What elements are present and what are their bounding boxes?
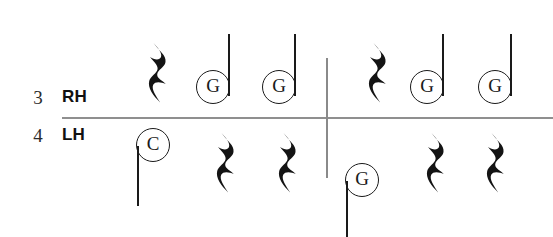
- notehead-letter: G: [478, 70, 512, 104]
- note-stem: [346, 181, 348, 237]
- note-g: G: [345, 163, 385, 203]
- time-signature-denominator: 4: [28, 126, 48, 145]
- quarter-rest: [484, 130, 514, 196]
- notehead-letter: C: [136, 128, 170, 162]
- note-c: C: [136, 128, 176, 168]
- notehead-letter: G: [262, 70, 296, 104]
- note-g: G: [262, 70, 302, 110]
- time-signature-numerator: 3: [28, 88, 48, 107]
- music-notation-diagram: 3 4 RH LH GGGGCG: [0, 0, 553, 237]
- note-stem: [294, 34, 296, 96]
- notehead-letter: G: [345, 163, 379, 197]
- right-hand-label: RH: [62, 88, 87, 105]
- note-stem: [510, 34, 512, 96]
- left-hand-label: LH: [62, 126, 85, 143]
- note-stem: [442, 34, 444, 96]
- barline: [326, 58, 328, 178]
- note-stem: [228, 34, 230, 96]
- quarter-rest: [424, 130, 454, 196]
- quarter-rest: [366, 40, 396, 106]
- note-stem: [137, 146, 139, 206]
- quarter-rest: [276, 130, 306, 196]
- note-g: G: [410, 70, 450, 110]
- note-g: G: [478, 70, 518, 110]
- note-g: G: [196, 70, 236, 110]
- quarter-rest: [214, 130, 244, 196]
- notehead-letter: G: [410, 70, 444, 104]
- staff-divider-line: [62, 117, 553, 119]
- quarter-rest: [146, 40, 176, 106]
- notehead-letter: G: [196, 70, 230, 104]
